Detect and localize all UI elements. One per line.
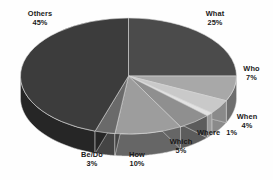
slice-label-what-percent: 25% <box>195 18 235 27</box>
slice-label-others-name: Others <box>20 9 60 18</box>
slice-label-which-name: Which <box>163 137 199 146</box>
slice-label-where-name: Where <box>197 128 220 137</box>
slice-label-who-name: Who <box>236 64 267 73</box>
slice-label-how: How 10% <box>121 150 153 168</box>
pie-chart: Others 45% What 25% Who 7% When 4% Where… <box>0 0 273 180</box>
slice-label-when-name: When <box>229 112 265 121</box>
slice-label-who: Who 7% <box>236 64 267 82</box>
slice-label-how-name: How <box>121 150 153 159</box>
slice-label-which-percent: 5% <box>163 146 199 155</box>
slice-label-be-do: Be/Do 3% <box>73 150 111 168</box>
slice-label-how-percent: 10% <box>121 159 153 168</box>
slice-label-who-percent: 7% <box>236 73 267 82</box>
slice-label-what: What 25% <box>195 9 235 27</box>
slice-label-others-percent: 45% <box>20 18 60 27</box>
slice-label-be-do-percent: 3% <box>73 159 111 168</box>
slice-label-where-percent: 1% <box>226 128 237 137</box>
slice-label-which: Which 5% <box>163 137 199 155</box>
slice-label-where: Where 1% <box>197 128 235 137</box>
slice-label-be-do-name: Be/Do <box>73 150 111 159</box>
pie-top-faces <box>20 18 236 134</box>
slice-label-others: Others 45% <box>20 9 60 27</box>
slice-label-what-name: What <box>195 9 235 18</box>
